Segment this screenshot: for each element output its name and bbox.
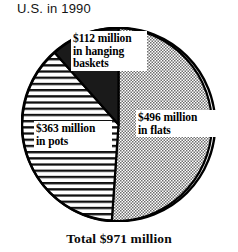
pie-chart-figure: U.S. in 1990 $1 xyxy=(0,0,238,252)
page-title: U.S. in 1990 xyxy=(17,1,91,16)
slice-label-pots: $363 million in pots xyxy=(34,121,112,148)
slice-label-hanging-baskets: $112 million in hanging baskets xyxy=(71,31,147,71)
slice-label-flats: $496 million in flats xyxy=(136,110,216,137)
chart-total-caption: Total $971 million xyxy=(0,231,238,247)
